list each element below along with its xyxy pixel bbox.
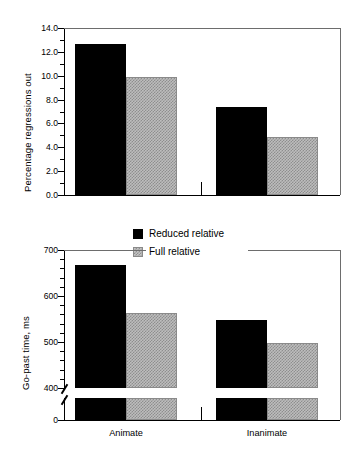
bottom-chart-bar-animate-full-upper <box>126 313 177 388</box>
bottom-chart-minor-tick <box>60 324 64 325</box>
bottom-chart-minor-tick <box>60 305 64 306</box>
bottom-chart-minor-tick <box>60 333 64 334</box>
bottom-chart-minor-tick <box>60 268 64 269</box>
bottom-chart-minor-tick <box>60 379 64 380</box>
bottom-chart-panel: Go-past time, ms 700 600 500 400 0 <box>0 0 362 457</box>
bottom-chart-ytick-500: 500 <box>30 337 58 347</box>
bottom-chart-frame-top-right <box>248 250 340 251</box>
bottom-chart-bar-animate-full-lower <box>126 398 177 420</box>
bottom-chart-y-axis-title: Go-past time, ms <box>20 316 31 390</box>
bottom-chart-category-separator-tick <box>201 407 202 420</box>
bottom-chart-x-axis-line <box>64 420 340 421</box>
bottom-chart-axis-break-mark <box>61 384 69 394</box>
bottom-chart-minor-tick <box>60 314 64 315</box>
bottom-chart-frame-right <box>340 250 341 420</box>
bottom-chart-ytick-0: 0 <box>30 415 58 425</box>
bottom-chart-ytick-600: 600 <box>30 291 58 301</box>
bottom-chart-y-axis-line <box>64 250 65 390</box>
bottom-chart-xtick-inanimate: Inanimate <box>227 428 307 438</box>
bottom-chart-major-tick <box>58 420 64 421</box>
bottom-chart-ytick-700: 700 <box>30 245 58 255</box>
bottom-chart-bar-inanimate-full-upper <box>267 343 318 388</box>
bottom-chart-major-tick <box>58 250 64 251</box>
bottom-chart-frame-top-left <box>64 250 146 251</box>
bottom-chart-bar-animate-reduced-lower <box>75 398 126 420</box>
bottom-chart-ytick-400: 400 <box>30 383 58 393</box>
bottom-chart-minor-tick <box>60 259 64 260</box>
bottom-chart-minor-tick <box>60 360 64 361</box>
bottom-chart-minor-tick <box>60 278 64 279</box>
bottom-chart-minor-tick <box>60 370 64 371</box>
bottom-chart-xtick-animate: Animate <box>86 428 166 438</box>
bottom-chart-minor-tick <box>60 287 64 288</box>
bottom-chart-major-tick <box>58 342 64 343</box>
figure-canvas: Percentage regressions out 14.0 12.0 10.… <box>0 0 362 457</box>
bottom-chart-bar-animate-reduced-upper <box>75 265 126 388</box>
bottom-chart-minor-tick <box>60 351 64 352</box>
bottom-chart-bar-inanimate-full-lower <box>267 398 318 420</box>
bottom-chart-bar-inanimate-reduced-lower <box>216 398 267 420</box>
bottom-chart-bar-inanimate-reduced-upper <box>216 320 267 388</box>
bottom-chart-major-tick <box>58 296 64 297</box>
